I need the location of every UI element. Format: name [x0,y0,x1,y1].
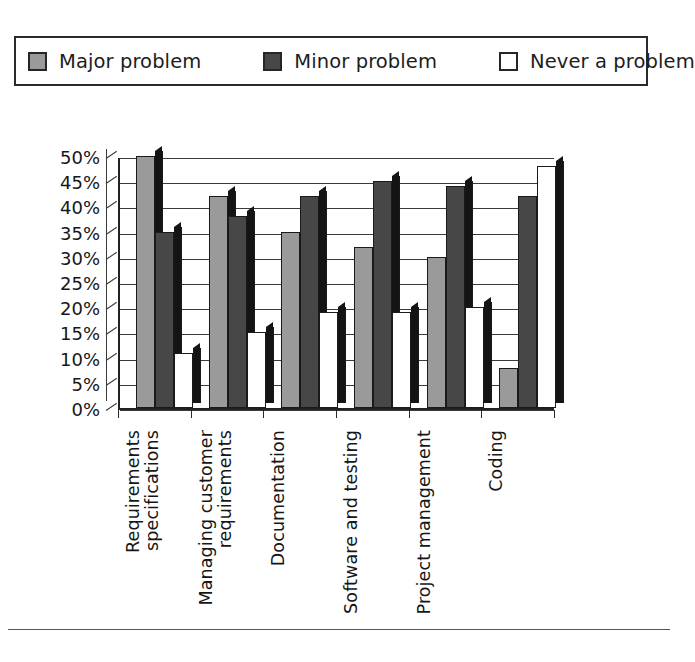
category-label-line: requirements [216,430,236,548]
legend-swatch-never-icon [499,52,518,71]
bar-1-1 [136,156,155,408]
chart-legend: Major problem Minor problem Never a prob… [14,36,648,86]
bar-face [354,247,373,408]
bar-6-3 [537,166,556,408]
y-axis-tick-5: 5% [71,376,100,394]
depth-tick-30 [106,252,117,260]
bar-group-1 [136,158,193,408]
bar-side-shadow [266,327,274,403]
bar-face [446,186,465,408]
bar-3-2 [300,196,319,408]
bar-2-1 [209,196,228,408]
y-axis-tick-25: 25% [60,275,100,293]
x-axis-ticks [118,410,554,418]
category-label-line: specifications [143,430,163,551]
y-axis-tick-40: 40% [60,199,100,217]
plot-area [106,158,554,410]
depth-tick-15 [106,327,117,335]
category-label-line: Managing customer [197,430,217,605]
bar-face [537,166,556,408]
bar-group-3 [281,158,338,408]
bar-side-shadow [338,307,346,403]
bar-1-3 [174,353,193,408]
y-axis-tick-30: 30% [60,250,100,268]
legend-label-never: Never a problem [530,50,695,73]
y-axis-tick-0: 0% [71,401,100,419]
category-label-line: Project management [415,430,435,614]
depth-tick-45 [106,176,117,184]
bar-face [518,196,537,408]
category-label-2: Managing customerrequirements [197,430,236,605]
x-axis-tick-0 [118,410,119,418]
bar-group-6 [499,158,556,408]
legend-swatch-minor-icon [263,52,282,71]
bar-side-shadow [193,348,201,403]
depth-tick-40 [106,201,117,209]
legend-item-minor: Minor problem [263,50,437,73]
bar-side-shadow [556,161,564,403]
bar-5-3 [465,307,484,408]
x-axis-category-labels: RequirementsspecificationsManaging custo… [0,430,680,600]
bar-1-2 [155,232,174,408]
bar-face [392,312,411,408]
depth-tick-25 [106,277,117,285]
bar-face [136,156,155,408]
bar-5-1 [427,257,446,408]
plot-wall [118,158,554,410]
y-axis-tick-20: 20% [60,300,100,318]
bar-group-2 [209,158,266,408]
legend-label-minor: Minor problem [294,50,437,73]
bar-face [155,232,174,408]
bar-face [319,312,338,408]
depth-tick-0 [106,403,117,411]
bar-face [247,332,266,408]
bar-face [465,307,484,408]
category-label-3: Documentation [269,430,289,566]
y-axis-tick-50: 50% [60,149,100,167]
category-label-line: Software and testing [342,430,362,614]
bar-4-2 [373,181,392,408]
y-axis-tick-10: 10% [60,351,100,369]
category-label-line: Coding [487,430,507,492]
category-label-line: Requirements [124,430,144,553]
x-axis-tick-1 [191,410,192,418]
bar-face [174,353,193,408]
depth-tick-20 [106,302,117,310]
legend-item-major: Major problem [28,50,201,73]
category-label-line: Documentation [269,430,289,566]
category-label-5: Project management [415,430,435,614]
y-axis-tick-35: 35% [60,225,100,243]
y-axis-tick-45: 45% [60,174,100,192]
bar-2-3 [247,332,266,408]
x-axis-tick-5 [481,410,482,418]
axis-depth-edge [106,149,107,401]
bottom-divider [8,629,670,630]
legend-swatch-major-icon [28,52,47,71]
y-axis-tick-15: 15% [60,325,100,343]
legend-item-never: Never a problem [499,50,695,73]
bar-side-shadow [411,307,419,403]
x-axis-tick-4 [409,410,410,418]
bar-face [499,368,518,408]
bar-3-1 [281,232,300,408]
y-axis-tick-labels: 50%45%40%35%30%25%20%15%10%5%0% [32,150,100,410]
bar-3-3 [319,312,338,408]
bar-face [300,196,319,408]
depth-tick-5 [106,378,117,386]
x-axis-tick-6 [554,410,555,418]
bar-group-5 [427,158,484,408]
bar-face [228,216,247,408]
bar-face [427,257,446,408]
category-label-4: Software and testing [342,430,362,614]
bar-group-4 [354,158,411,408]
bar-face [209,196,228,408]
depth-tick-50 [106,151,117,159]
category-label-6: Coding [487,430,507,492]
bar-6-2 [518,196,537,408]
depth-tick-10 [106,352,117,360]
bar-4-1 [354,247,373,408]
x-axis-tick-3 [336,410,337,418]
bar-chart: 50%45%40%35%30%25%20%15%10%5%0% [0,150,680,440]
category-label-1: Requirementsspecifications [124,430,163,553]
